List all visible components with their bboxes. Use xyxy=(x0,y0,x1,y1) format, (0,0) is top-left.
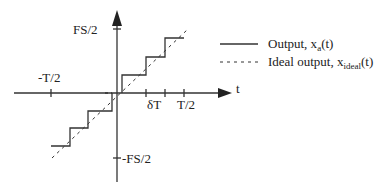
y-top-label: FS/2 xyxy=(73,23,98,36)
tick-label-delta-t: δT xyxy=(147,98,161,111)
ideal-output-line xyxy=(52,30,187,158)
tick-label-t2: T/2 xyxy=(177,98,195,111)
legend-item-output: Output, xa(t) xyxy=(268,37,333,50)
quantization-diagram xyxy=(0,0,388,189)
y-bottom-label: -FS/2 xyxy=(122,152,151,165)
x-axis-arrow-icon xyxy=(218,88,232,98)
legend-item-ideal: Ideal output, xideal(t) xyxy=(268,55,373,68)
tick-label-neg-t2: -T/2 xyxy=(38,71,60,84)
x-axis-label: t xyxy=(236,82,240,95)
output-staircase-upper xyxy=(122,38,184,93)
output-staircase-lower xyxy=(51,93,112,146)
y-axis-arrow-icon xyxy=(112,10,122,26)
